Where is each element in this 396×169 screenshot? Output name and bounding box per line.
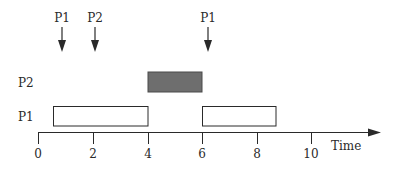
tick-label: 4 [144, 147, 152, 161]
row-label-p2: P2 [18, 76, 34, 90]
axis-label-time: Time [331, 139, 361, 153]
arrival-label: P2 [87, 11, 103, 25]
arrival-label: P1 [54, 11, 70, 25]
p2-running-bar [148, 72, 202, 92]
down-arrow-icon [91, 40, 99, 52]
arrival-marker-p2: P2 [87, 11, 103, 52]
arrival-label: P1 [200, 11, 216, 25]
time-axis: 0 2 4 6 8 10 Time [34, 129, 381, 162]
arrival-marker-p1-second: P1 [200, 11, 216, 52]
tick-label: 2 [89, 147, 97, 161]
down-arrow-icon [204, 40, 212, 52]
axis-arrow-icon [368, 129, 381, 137]
down-arrow-icon [58, 40, 66, 52]
tick-label: 6 [198, 147, 206, 161]
schedule-diagram: P1 P2 P1 P2 P1 0 2 4 6 8 10 Time [0, 0, 396, 169]
tick-label: 8 [253, 147, 261, 161]
tick-label: 10 [303, 147, 318, 161]
tick-label: 0 [34, 147, 42, 161]
p1-bar-segment-2 [203, 107, 277, 127]
arrival-marker-p1-first: P1 [54, 11, 70, 52]
row-label-p1: P1 [18, 110, 34, 124]
p1-bar-segment-1 [54, 107, 149, 127]
